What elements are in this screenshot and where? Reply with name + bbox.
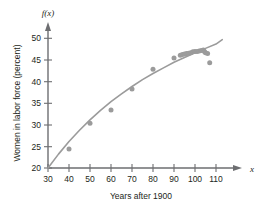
x-tick-label: 60 — [106, 174, 116, 184]
y-tick-label: 20 — [32, 163, 42, 173]
x-tick-label: 80 — [148, 174, 158, 184]
data-point — [205, 51, 210, 56]
y-tick-label: 50 — [32, 33, 42, 43]
y-tick-label: 40 — [32, 77, 42, 87]
regression-curve — [48, 40, 222, 168]
y-tick-label: 35 — [32, 98, 42, 108]
data-point — [109, 107, 114, 112]
plot-data-layer — [48, 40, 222, 168]
x-tick-label: 50 — [85, 174, 95, 184]
chart-container: 50 45 40 35 30 25 20 30 40 50 60 70 80 9… — [0, 0, 263, 213]
y-tick-label: 45 — [32, 55, 42, 65]
y-axis — [45, 22, 51, 168]
y-axis-function-label: f(x) — [42, 8, 55, 18]
data-point — [172, 55, 177, 60]
x-tick-label: 110 — [209, 174, 223, 184]
y-tick-label: 30 — [32, 120, 42, 130]
x-axis-title: Years after 1900 — [110, 191, 172, 201]
x-tick-label: 90 — [169, 174, 179, 184]
x-tick-label: 40 — [64, 174, 74, 184]
data-point — [67, 146, 72, 151]
x-axis-variable-label: x — [249, 164, 254, 174]
x-tick-label: 30 — [43, 174, 53, 184]
y-tick-label: 25 — [32, 142, 42, 152]
data-point — [151, 67, 156, 72]
labor-force-scatter-chart: 50 45 40 35 30 25 20 30 40 50 60 70 80 9… — [0, 0, 263, 213]
x-axis — [48, 165, 242, 171]
data-point — [207, 60, 212, 65]
y-axis-title: Women in labor force (percent) — [12, 44, 22, 161]
x-tick-label: 70 — [127, 174, 137, 184]
x-tick-label: 100 — [188, 174, 202, 184]
